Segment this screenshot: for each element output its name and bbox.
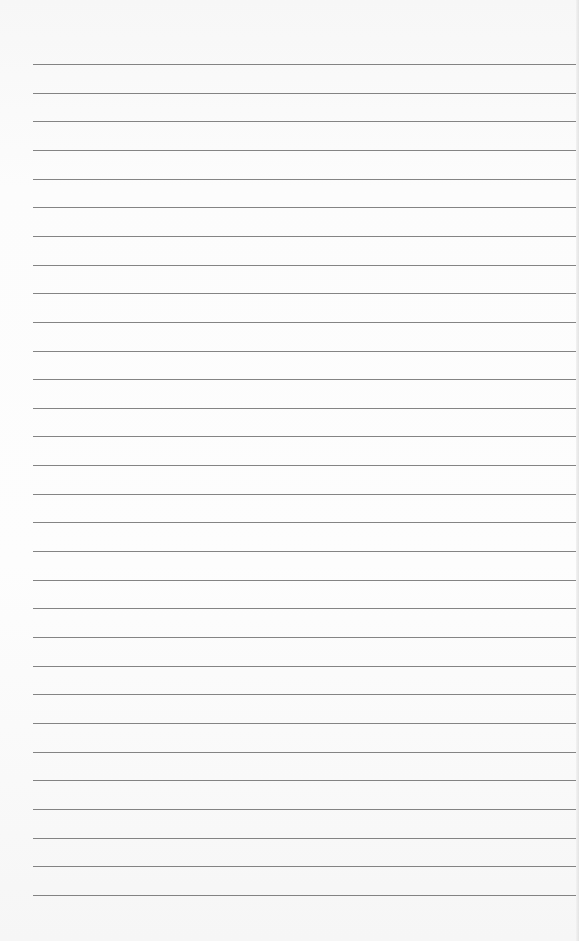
ruled-line: [33, 637, 579, 638]
ruled-line: [33, 780, 579, 781]
ruled-line: [33, 236, 579, 237]
ruled-line: [33, 866, 579, 867]
ruled-line: [33, 666, 579, 667]
ruled-line: [33, 723, 579, 724]
ruled-line: [33, 64, 579, 65]
lined-paper-sheet: [0, 0, 579, 941]
ruled-line: [33, 838, 579, 839]
ruled-line: [33, 494, 579, 495]
ruled-line: [33, 351, 579, 352]
ruled-line: [33, 752, 579, 753]
ruled-line: [33, 265, 579, 266]
ruled-line: [33, 465, 579, 466]
ruled-line: [33, 551, 579, 552]
ruled-line: [33, 580, 579, 581]
ruled-line: [33, 608, 579, 609]
ruled-line: [33, 522, 579, 523]
ruled-line: [33, 179, 579, 180]
ruled-line: [33, 207, 579, 208]
ruled-line: [33, 694, 579, 695]
ruled-line: [33, 150, 579, 151]
ruled-line: [33, 379, 579, 380]
ruled-line: [33, 895, 579, 896]
ruled-line: [33, 293, 579, 294]
ruled-line: [33, 809, 579, 810]
ruled-line: [33, 408, 579, 409]
ruled-line: [33, 322, 579, 323]
ruled-line: [33, 436, 579, 437]
ruled-line: [33, 121, 579, 122]
ruled-line: [33, 93, 579, 94]
